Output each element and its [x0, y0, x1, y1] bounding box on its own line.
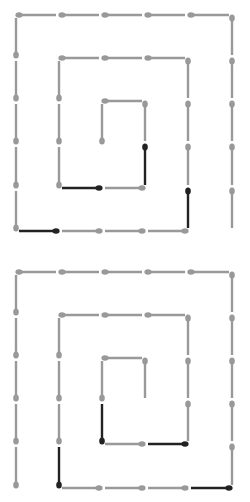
path-segment-inactive [144, 12, 185, 18]
path-segment-inactive [15, 269, 56, 275]
path-segment-inactive [229, 143, 235, 185]
path-segment-active [99, 404, 105, 445]
segment-knob-icon [13, 394, 19, 401]
path-segment-inactive [229, 57, 235, 98]
segment-knob-icon [56, 481, 62, 488]
path-segment-inactive [144, 55, 185, 61]
segment-knob-icon [185, 57, 191, 64]
path-segment-inactive [185, 143, 191, 185]
segment-knob-icon [185, 100, 191, 107]
segment-knob-icon [99, 437, 105, 444]
path-segment-inactive [229, 187, 235, 228]
segment-knob-icon [99, 137, 105, 144]
path-segment-inactive [105, 485, 146, 491]
segment-knob-icon [142, 100, 148, 107]
segment-knob-icon [181, 441, 188, 447]
path-segment-inactive [105, 228, 146, 234]
path-segment-inactive [187, 12, 229, 18]
path-segment-active [19, 228, 60, 234]
path-segment-inactive [185, 57, 191, 98]
path-segment-inactive [187, 269, 229, 275]
segment-knob-icon [138, 441, 145, 447]
path-segment-inactive [56, 147, 62, 189]
segment-knob-icon [13, 181, 19, 188]
segment-knob-icon [58, 55, 65, 61]
segment-knob-icon [13, 481, 19, 488]
path-segment-inactive [185, 100, 191, 141]
path-segment-inactive [229, 443, 235, 485]
path-segment-inactive [13, 104, 19, 145]
segment-knob-icon [99, 394, 105, 401]
segment-knob-icon [101, 269, 108, 275]
path-segment-inactive [13, 18, 19, 59]
segment-knob-icon [185, 314, 191, 321]
segment-knob-icon [13, 437, 19, 444]
segment-knob-icon [58, 312, 65, 318]
segment-knob-icon [13, 94, 19, 101]
path-segment-inactive [13, 275, 19, 316]
path-segment-inactive [13, 404, 19, 445]
path-segment-inactive [56, 61, 62, 102]
path-segment-inactive [13, 361, 19, 402]
path-segment-inactive [229, 400, 235, 441]
path-segment-inactive [101, 355, 142, 361]
segment-knob-icon [56, 94, 62, 101]
path-segment-inactive [144, 269, 185, 275]
segment-knob-icon [185, 143, 191, 150]
path-segment-inactive [56, 318, 62, 359]
path-segment-inactive [58, 312, 99, 318]
segment-knob-icon [229, 187, 235, 194]
segment-knob-icon [101, 355, 108, 361]
path-segment-inactive [101, 98, 142, 104]
path-segment-inactive [99, 361, 105, 402]
path-segment-inactive [13, 147, 19, 189]
bottom-spiral [13, 269, 235, 491]
path-segment-inactive [229, 314, 235, 355]
path-segment-inactive [58, 12, 99, 18]
path-segment-active [185, 187, 191, 228]
path-segment-inactive [13, 191, 19, 232]
path-segment-inactive [58, 269, 99, 275]
segment-knob-icon [56, 181, 62, 188]
path-segment-inactive [99, 104, 105, 145]
segment-knob-icon [101, 55, 108, 61]
segment-knob-icon [13, 51, 19, 58]
segment-knob-icon [181, 228, 188, 234]
path-segment-inactive [13, 61, 19, 102]
segment-knob-icon [138, 485, 145, 491]
segment-knob-icon [144, 55, 151, 61]
segment-knob-icon [229, 143, 235, 150]
segment-knob-icon [138, 228, 145, 234]
segment-knob-icon [13, 224, 19, 231]
segment-knob-icon [144, 12, 151, 18]
path-segment-inactive [142, 357, 148, 398]
path-segment-inactive [56, 104, 62, 145]
segment-knob-icon [15, 269, 22, 275]
segment-knob-icon [95, 485, 102, 491]
segment-knob-icon [52, 228, 59, 234]
path-segment-inactive [13, 318, 19, 359]
path-segment-inactive [229, 357, 235, 398]
path-segment-inactive [148, 228, 189, 234]
path-segment-inactive [13, 447, 19, 489]
segment-knob-icon [229, 271, 235, 278]
spiral-diagram [0, 0, 250, 502]
segment-knob-icon [185, 357, 191, 364]
segment-knob-icon [144, 312, 151, 318]
segment-knob-icon [58, 269, 65, 275]
segment-knob-icon [142, 143, 148, 150]
path-segment-inactive [101, 312, 142, 318]
path-segment-inactive [15, 12, 56, 18]
segment-knob-icon [229, 14, 235, 21]
segment-knob-icon [13, 137, 19, 144]
top-spiral [13, 12, 235, 234]
path-segment-inactive [62, 228, 103, 234]
path-segment-inactive [185, 357, 191, 398]
segment-knob-icon [142, 357, 148, 364]
path-segment-inactive [101, 55, 142, 61]
segment-knob-icon [225, 485, 232, 491]
path-segment-inactive [144, 312, 185, 318]
segment-knob-icon [56, 394, 62, 401]
path-segment-inactive [105, 185, 146, 191]
segment-knob-icon [15, 12, 22, 18]
